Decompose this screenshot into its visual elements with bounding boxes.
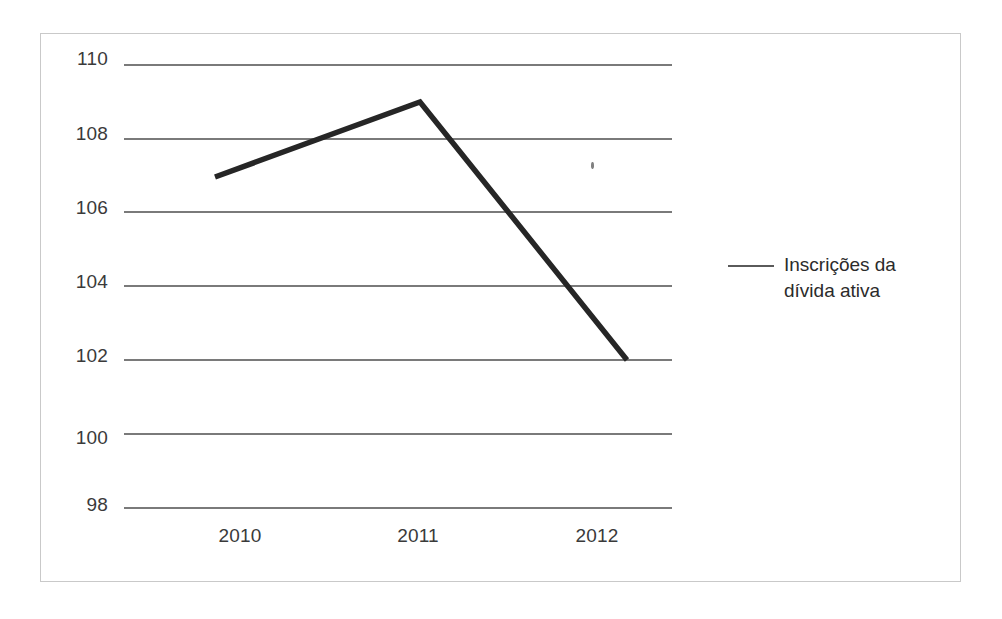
x-axis-tick-labels: 2010 2011 2012 [0,525,1002,559]
chart-figure: 110 108 106 104 102 100 98 2010 2011 201… [0,0,1002,619]
scan-artifact-speck [591,162,594,169]
y-tick-label-108: 108 [56,123,108,145]
x-tick-label-2010: 2010 [218,525,261,547]
y-tick-label-106: 106 [56,197,108,219]
x-tick-label-2011: 2011 [397,525,439,547]
data-series-inscricoes-divida-ativa [215,102,627,360]
legend-line-marker-icon [728,258,774,274]
y-tick-label-110: 110 [56,48,108,70]
x-tick-label-2012: 2012 [575,525,618,547]
y-tick-label-100: 100 [56,427,108,449]
y-tick-label-102: 102 [56,345,108,367]
y-tick-label-104: 104 [56,271,108,293]
gridlines [124,65,672,508]
y-tick-label-98: 98 [56,494,108,516]
legend-entry-label: Inscrições da dívida ativa [784,252,896,304]
series-line [215,102,627,360]
chart-legend: Inscrições da dívida ativa [728,252,896,304]
